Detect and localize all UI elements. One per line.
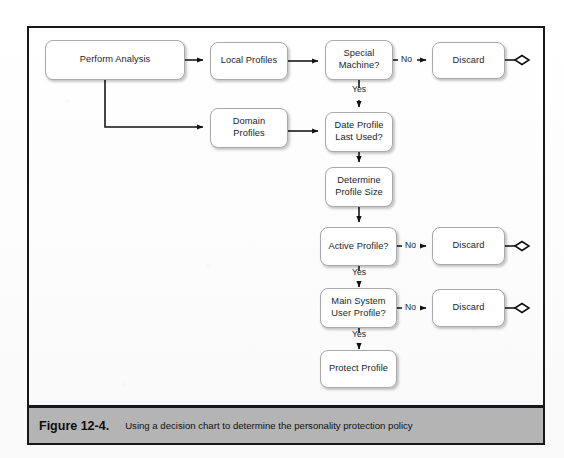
terminator-diamond-icon-1 — [515, 56, 529, 65]
edge-label-no-main-system-user: No — [400, 303, 421, 312]
node-protect-profile[interactable]: Protect Profile — [320, 350, 397, 388]
node-domain-profiles[interactable]: Domain Profiles — [210, 108, 288, 148]
terminator-diamond-icon-2 — [515, 242, 529, 251]
node-perform-analysis[interactable]: Perform Analysis — [45, 40, 185, 80]
node-discard-2[interactable]: Discard — [432, 227, 505, 265]
node-main-system-user-profile[interactable]: Main System User Profile? — [320, 288, 397, 328]
edge-label-yes-active-profile: Yes — [347, 268, 371, 277]
edge-label-no-active-profile: No — [400, 241, 421, 250]
edge-label-yes-special-machine: Yes — [347, 85, 371, 94]
connector-layer — [27, 26, 545, 403]
node-date-profile-last-used[interactable]: Date Profile Last Used? — [325, 112, 393, 152]
node-discard-3[interactable]: Discard — [432, 289, 505, 327]
flowchart-diagram: Perform Analysis Local Profiles Domain P… — [27, 26, 545, 403]
node-active-profile[interactable]: Active Profile? — [320, 227, 397, 266]
figure-number-label: Figure 12-4. — [39, 419, 109, 433]
figure-caption-band: Figure 12-4. Using a decision chart to d… — [29, 405, 543, 443]
edge-label-yes-main-system-user: Yes — [347, 330, 371, 339]
node-local-profiles[interactable]: Local Profiles — [210, 42, 288, 80]
edge-perform-analysis-to-domain-profiles — [105, 80, 203, 127]
node-discard-1[interactable]: Discard — [432, 42, 505, 79]
edge-label-no-special-machine: No — [396, 55, 417, 64]
node-determine-profile-size[interactable]: Determine Profile Size — [325, 167, 393, 207]
figure-caption-text: Using a decision chart to determine the … — [125, 420, 412, 431]
node-special-machine[interactable]: Special Machine? — [325, 40, 393, 80]
terminator-diamond-icon-3 — [515, 304, 529, 313]
figure-page: Perform Analysis Local Profiles Domain P… — [0, 0, 564, 458]
